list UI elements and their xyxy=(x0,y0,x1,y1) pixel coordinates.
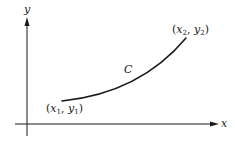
diagram-figure: y x C (x1, y1) (x2, y2) xyxy=(0,0,235,144)
start-point-label: (x1, y1) xyxy=(46,103,83,116)
diagram-canvas xyxy=(0,0,235,144)
end-point-label: (x2, y2) xyxy=(172,24,209,37)
x-axis-arrowhead-icon xyxy=(210,122,219,127)
x-axis-label: x xyxy=(221,118,227,129)
y-axis-arrowhead-icon xyxy=(25,17,30,26)
y-axis-label: y xyxy=(24,4,30,15)
curve-label: C xyxy=(124,64,132,75)
